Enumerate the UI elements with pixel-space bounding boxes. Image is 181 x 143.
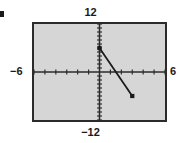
y-min-tick-label: −12 — [0, 127, 181, 138]
x-min-tick-label: −6 — [10, 66, 23, 77]
axes-group — [34, 24, 165, 120]
plot-canvas — [34, 24, 165, 120]
data-point-marker — [97, 46, 101, 50]
y-max-tick-label: 12 — [0, 7, 181, 18]
plot-frame — [32, 22, 167, 122]
graph-figure: 12 −6 6 −12 — [0, 0, 181, 143]
x-max-tick-label: 6 — [170, 66, 176, 77]
data-point-marker — [130, 94, 134, 98]
